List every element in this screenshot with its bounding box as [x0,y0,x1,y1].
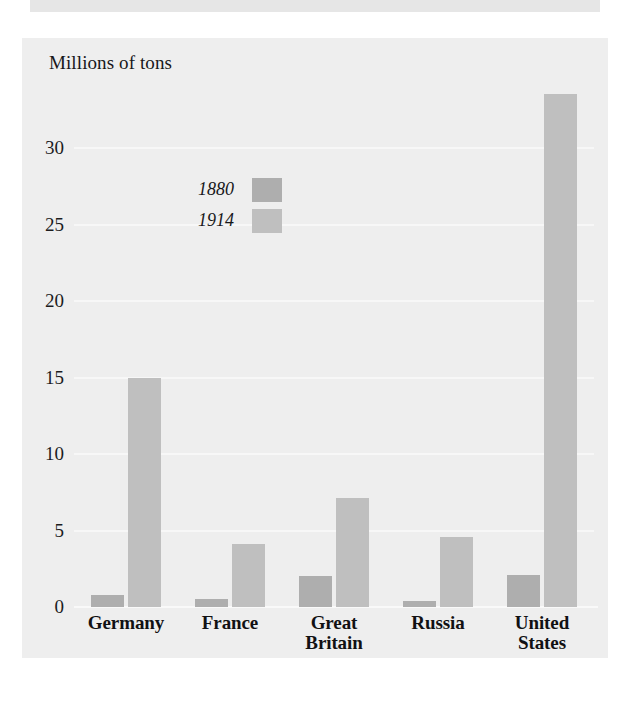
x-axis-label-line: United [482,613,602,633]
gridline-25 [74,224,594,226]
y-axis-tick-label: 5 [22,520,64,542]
x-axis-label-line: France [170,613,290,633]
bar-united-states-1880 [507,575,540,607]
bar-russia-1880 [403,601,436,607]
x-axis-label-line: Russia [378,613,498,633]
bar-great-britain-1880 [299,576,332,607]
bar-chart-figure: Millions of tons 051015202530GermanyFran… [22,38,608,658]
chart-legend: 1880 1914 [172,176,302,238]
x-axis-label-line: Britain [274,633,394,653]
bar-germany-1914 [128,378,161,608]
x-axis-label-united-states: UnitedStates [482,613,602,653]
y-axis-tick-label: 0 [22,596,64,618]
bar-france-1880 [195,599,228,607]
bar-united-states-1914 [544,94,577,607]
legend-label-1880: 1880 [172,179,234,200]
legend-swatch-1914 [252,209,282,233]
bar-great-britain-1914 [336,498,369,607]
bar-russia-1914 [440,537,473,607]
x-axis-label-germany: Germany [66,613,186,633]
plot-area: 051015202530GermanyFranceGreatBritainRus… [22,38,608,658]
y-axis-tick-label: 15 [22,367,64,389]
legend-entry-1914: 1914 [172,207,302,238]
legend-entry-1880: 1880 [172,176,302,207]
y-axis-tick-label: 30 [22,137,64,159]
gridline-30 [74,147,594,149]
y-axis-tick-label: 10 [22,443,64,465]
x-axis-label-line: States [482,633,602,653]
y-axis-tick-label: 20 [22,290,64,312]
legend-swatch-1880 [252,178,282,202]
bar-france-1914 [232,544,265,607]
x-axis-label-line: Germany [66,613,186,633]
x-axis-label-france: France [170,613,290,633]
x-axis-label-russia: Russia [378,613,498,633]
page-scan-strip [30,0,600,12]
y-axis-tick-label: 25 [22,214,64,236]
bar-germany-1880 [91,595,124,607]
x-axis-label-great-britain: GreatBritain [274,613,394,653]
x-axis-label-line: Great [274,613,394,633]
gridline-20 [74,300,594,302]
legend-label-1914: 1914 [172,210,234,231]
